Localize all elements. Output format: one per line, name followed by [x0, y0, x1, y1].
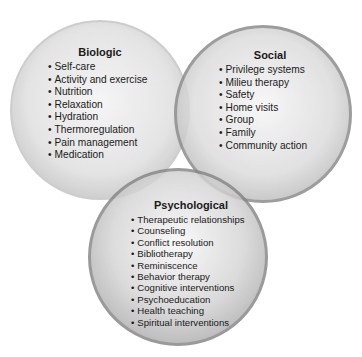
list-item: Therapeutic relationships — [131, 214, 261, 225]
social-list: Privilege systems Milieu therapy Safety … — [219, 64, 329, 152]
list-item: Thermoregulation — [48, 124, 158, 137]
social-section: Social Privilege systems Milieu therapy … — [219, 49, 329, 152]
list-item: Medication — [48, 149, 158, 162]
list-item: Relaxation — [48, 99, 158, 112]
biologic-list: Self-care Activity and exercise Nutritio… — [48, 61, 158, 162]
list-item: Counseling — [131, 225, 261, 236]
list-item: Family — [219, 127, 329, 140]
list-item: Privilege systems — [219, 64, 329, 77]
list-item: Bibliotherapy — [131, 248, 261, 259]
list-item: Behavior therapy — [131, 271, 261, 282]
list-item: Self-care — [48, 61, 158, 74]
list-item: Reminiscence — [131, 260, 261, 271]
biologic-section: Biologic Self-care Activity and exercise… — [48, 46, 158, 162]
list-item: Spiritual interventions — [131, 317, 261, 328]
list-item: Hydration — [48, 111, 158, 124]
list-item: Group — [219, 114, 329, 127]
list-item: Safety — [219, 89, 329, 102]
list-item: Activity and exercise — [48, 74, 158, 87]
list-item: Cognitive interventions — [131, 282, 261, 293]
list-item: Health teaching — [131, 305, 261, 316]
list-item: Milieu therapy — [219, 77, 329, 90]
social-title: Social — [211, 49, 329, 61]
list-item: Pain management — [48, 137, 158, 150]
psychological-section: Psychological Therapeutic relationships … — [131, 199, 261, 328]
biologic-title: Biologic — [42, 46, 158, 58]
list-item: Nutrition — [48, 86, 158, 99]
list-item: Home visits — [219, 102, 329, 115]
psychological-list: Therapeutic relationships Counseling Con… — [131, 214, 261, 328]
psychological-title: Psychological — [121, 199, 261, 211]
list-item: Community action — [219, 140, 329, 153]
list-item: Psychoeducation — [131, 294, 261, 305]
list-item: Conflict resolution — [131, 237, 261, 248]
